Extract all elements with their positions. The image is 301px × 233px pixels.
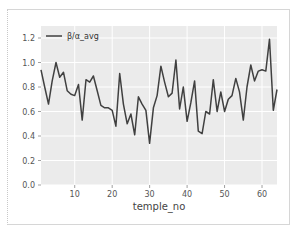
legend-label: β/α_avg [67, 32, 99, 41]
y-tick-label: 0.8 [22, 83, 35, 92]
x-tick-label: 50 [219, 190, 229, 199]
y-tick-label: 0.4 [22, 132, 35, 141]
x-tick-label: 40 [182, 190, 192, 199]
y-tick-label: 0.2 [22, 157, 35, 166]
x-tick-label: 10 [70, 190, 80, 199]
y-tick-label: 1.0 [22, 59, 35, 68]
x-axis: 102030405060 [70, 185, 267, 199]
x-tick-label: 20 [107, 190, 117, 199]
x-tick-label: 30 [145, 190, 155, 199]
y-axis: 0.00.20.40.60.81.01.2 [22, 34, 41, 190]
y-tick-label: 1.2 [22, 34, 35, 43]
x-tick-label: 60 [257, 190, 267, 199]
y-tick-label: 0.6 [22, 108, 35, 117]
x-axis-label: temple_no [133, 201, 186, 213]
line-chart: 0.00.20.40.60.81.01.2 102030405060 β/α_a… [0, 0, 301, 233]
y-tick-label: 0.0 [22, 181, 35, 190]
